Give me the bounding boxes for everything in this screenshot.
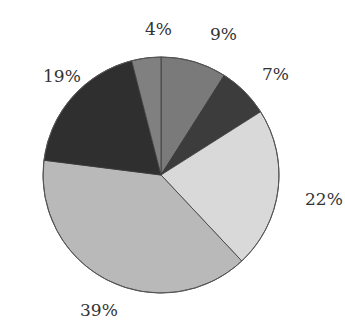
pie-chart: 9% 7% 22% 39% 19% 4% xyxy=(0,0,345,333)
slice-label-9: 9% xyxy=(210,24,237,44)
slice-label-19: 19% xyxy=(43,66,81,86)
pie-slices xyxy=(43,57,279,293)
slice-label-39: 39% xyxy=(80,300,118,320)
slice-label-7: 7% xyxy=(262,64,289,84)
slice-label-4: 4% xyxy=(145,19,172,39)
slice-label-22: 22% xyxy=(305,189,343,209)
